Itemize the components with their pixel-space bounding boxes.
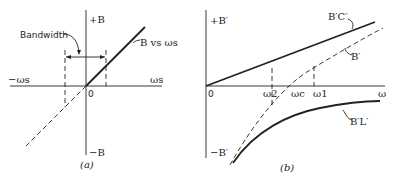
- a-x-right-label: ωs: [150, 74, 163, 85]
- b-omega1-label: ω1: [313, 88, 328, 99]
- b-origin-label: 0: [208, 89, 214, 99]
- b-bl-curve: [233, 101, 380, 163]
- a-dashed-line: [26, 86, 86, 146]
- b-b-label: B′: [351, 51, 361, 62]
- b-omegac-label: ωc: [291, 88, 305, 99]
- b-y-top-label: +B′: [210, 15, 229, 26]
- b-bl-label: B′L′: [350, 116, 369, 127]
- a-line-label: B vs ωs: [140, 37, 178, 48]
- a-x-left-label: −ωs: [8, 74, 30, 85]
- a-bandwidth-label: Bandwidth: [20, 30, 68, 40]
- arrowhead-left-icon: [66, 55, 71, 59]
- figure-b-labels: +B′ −B′ ω 0 ω2 ωc ω1 B′C′ B′ B′L′ (b): [208, 11, 386, 173]
- arrowhead-down-icon: [77, 50, 81, 55]
- a-line-label-pointer: [133, 40, 140, 43]
- b-bc-pointer: [348, 19, 353, 29]
- a-solid-line: [86, 27, 145, 86]
- a-y-bottom-label: −B: [89, 147, 105, 158]
- figure-canvas: +B −B −ωs ωs 0 Bandwidth B vs ωs (a) +B′…: [0, 0, 393, 182]
- a-origin-label: 0: [88, 89, 94, 99]
- b-x-right-label: ω: [378, 88, 386, 99]
- b-caption: (b): [280, 162, 294, 173]
- arrowhead-right-icon: [100, 55, 105, 59]
- a-caption: (a): [80, 159, 94, 170]
- b-y-bottom-label: −B′: [210, 147, 229, 158]
- b-omega2-label: ω2: [263, 88, 278, 99]
- b-bc-label: B′C′: [328, 11, 348, 22]
- a-y-top-label: +B: [89, 14, 105, 25]
- figure-a-labels: +B −B −ωs ωs 0 Bandwidth B vs ωs (a): [8, 14, 178, 170]
